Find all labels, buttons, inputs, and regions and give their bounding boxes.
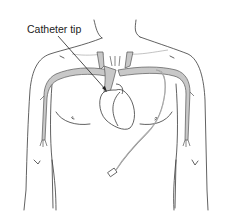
- right-inner-arm: [175, 84, 178, 208]
- superior-vena-cava: [104, 66, 116, 92]
- left-clavicle: [60, 56, 64, 58]
- right-upper-branch: [190, 92, 194, 96]
- left-vein-branch: [40, 140, 47, 147]
- left-inner-arm: [51, 84, 54, 208]
- right-clavicle: [170, 56, 174, 58]
- left-upper-branch: [40, 96, 44, 100]
- right-vein-branch: [183, 140, 190, 147]
- left-elbow-mark: [34, 160, 40, 164]
- left-jugular-vein: [97, 52, 104, 70]
- neck-small-veins: [110, 56, 120, 66]
- neck-right: [135, 20, 140, 37]
- right-jugular-vein: [125, 52, 133, 68]
- left-arm-vein: [42, 68, 108, 140]
- left-pectoral: [56, 112, 90, 125]
- catheter-tip-label: Catheter tip: [27, 23, 81, 35]
- catheter-hub: [108, 168, 117, 177]
- picc-line-diagram: Catheter tip: [0, 0, 232, 216]
- left-nipple: [72, 117, 74, 119]
- neck-left: [94, 20, 102, 38]
- right-shoulder-hint: [128, 50, 168, 54]
- right-elbow-mark: [192, 160, 198, 165]
